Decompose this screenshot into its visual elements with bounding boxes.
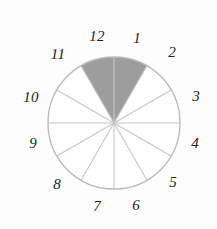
figure-container: 123456789101112 [0,0,217,229]
sector-label-8: 8 [53,177,61,192]
sector-label-1: 1 [133,31,141,46]
sector-label-4: 4 [191,136,199,151]
sector-label-2: 2 [168,45,176,60]
clock-pie-chart [0,0,217,229]
sector-label-6: 6 [132,198,140,213]
sector-label-12: 12 [89,29,104,44]
sector-label-7: 7 [93,199,101,214]
sector-label-3: 3 [192,89,200,104]
sector-label-10: 10 [23,90,38,105]
sector-label-11: 11 [51,47,65,62]
sector-label-5: 5 [169,175,177,190]
sector-label-9: 9 [29,136,37,151]
